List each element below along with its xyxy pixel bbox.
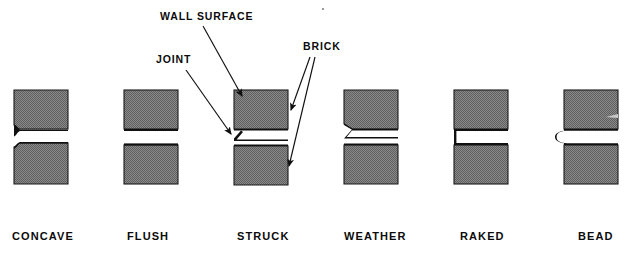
- joint-figure-weather: [344, 90, 398, 184]
- joint-label-raked: RAKED: [460, 230, 505, 242]
- bead-lower-brick: [564, 145, 618, 184]
- weather-upper-brick: [344, 90, 398, 129]
- joint-label-bead: BEAD: [578, 230, 614, 242]
- callout-label-brick: BRICK: [303, 40, 341, 52]
- struck-joint-top-line: [234, 129, 288, 131]
- weather-joint-bottom-line: [344, 144, 398, 146]
- struck-lower-brick: [234, 146, 288, 185]
- scan-speck: [322, 8, 324, 10]
- raked-lower-brick: [454, 145, 508, 184]
- raked-joint-bottom-line: [454, 143, 508, 145]
- flush-upper-brick: [124, 90, 178, 129]
- weather-lower-brick: [344, 145, 398, 184]
- raked-recessed-mortar: [454, 129, 456, 145]
- flush-joint-bottom-line: [124, 143, 178, 145]
- bead-upper-brick: [564, 90, 618, 129]
- raked-upper-brick: [454, 90, 508, 129]
- joint-label-weather: WEATHER: [344, 230, 407, 242]
- mortar-joint-diagram: WALL SURFACE JOINT BRICK CONCAVE FLUSH S…: [0, 0, 628, 258]
- joint-label-concave: CONCAVE: [12, 230, 74, 242]
- concave-upper-brick: [14, 90, 68, 129]
- struck-joint-bottom-line: [234, 144, 288, 146]
- callout-label-joint: JOINT: [156, 53, 191, 65]
- diagram-background: [0, 0, 628, 258]
- joint-label-flush: FLUSH: [127, 230, 169, 242]
- flush-lower-brick: [124, 145, 178, 184]
- diagram-canvas: WALL SURFACE JOINT BRICK CONCAVE FLUSH S…: [0, 0, 628, 258]
- joint-label-struck: STRUCK: [237, 230, 289, 242]
- callout-label-wall-surface: WALL SURFACE: [160, 10, 253, 22]
- concave-lower-brick: [14, 143, 68, 184]
- raked-joint-top-line: [454, 129, 508, 131]
- flush-joint-top-line: [124, 129, 178, 131]
